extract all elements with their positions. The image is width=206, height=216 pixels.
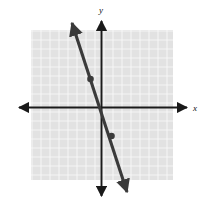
data-point-2: [108, 133, 115, 140]
y-axis-label: y: [98, 5, 103, 15]
coordinate-plane-graph: y x: [0, 0, 206, 216]
graph-figure: y x: [0, 0, 206, 216]
x-axis-label: x: [192, 103, 197, 113]
data-point-1: [87, 76, 94, 83]
